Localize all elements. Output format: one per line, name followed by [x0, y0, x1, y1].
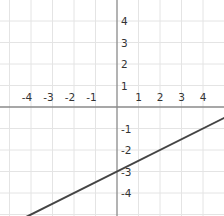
x-tick-label: -4 [22, 91, 33, 103]
line-y-equals-half-x-minus-3 [0, 112, 224, 216]
x-tick-label: 1 [135, 91, 142, 103]
y-tick-label: -1 [121, 123, 131, 135]
x-tick-label: -3 [43, 91, 53, 103]
y-tick-label: -2 [121, 144, 131, 156]
coordinate-plane: -4-3-2-11234 4321-1-2-3-4 [0, 0, 224, 216]
x-tick-label: 3 [178, 91, 185, 103]
x-tick-label: -1 [86, 91, 96, 103]
axes [0, 0, 224, 216]
y-tick-label: 2 [121, 58, 128, 70]
y-tick-label: 3 [121, 37, 128, 49]
y-tick-label: 4 [121, 15, 128, 27]
x-tick-label: 2 [157, 91, 164, 103]
y-tick-label: 1 [121, 80, 128, 92]
y-tick-label: -4 [121, 187, 132, 199]
plotted-line [0, 112, 224, 216]
grid-lines [0, 0, 224, 216]
x-tick-label: -2 [65, 91, 75, 103]
x-tick-label: 4 [200, 91, 207, 103]
x-tick-labels: -4-3-2-11234 [22, 91, 207, 103]
